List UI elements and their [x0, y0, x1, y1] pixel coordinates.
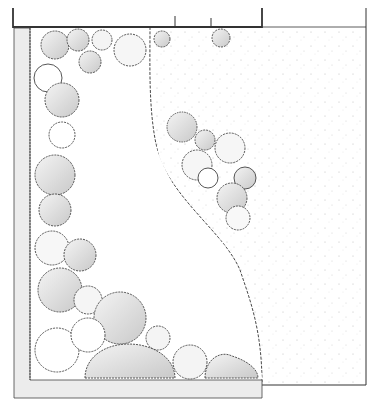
shrub	[64, 239, 96, 271]
shrub	[167, 112, 197, 142]
garden-plan-drawing	[0, 0, 378, 413]
shrub	[41, 31, 69, 59]
shrub	[92, 30, 112, 50]
shrub	[45, 83, 79, 117]
shrub	[114, 34, 146, 66]
shrub	[146, 326, 170, 350]
shrub	[35, 231, 69, 265]
shrub	[212, 29, 230, 47]
shrub	[215, 133, 245, 163]
shrub	[226, 206, 250, 230]
shrub	[173, 345, 207, 379]
shrub	[49, 122, 75, 148]
shrub	[39, 194, 71, 226]
shrub	[79, 51, 101, 73]
shrub	[154, 31, 170, 47]
shrub	[195, 130, 215, 150]
shrub	[35, 155, 75, 195]
shrub	[198, 168, 218, 188]
shrub	[67, 29, 89, 51]
shrub	[71, 318, 105, 352]
